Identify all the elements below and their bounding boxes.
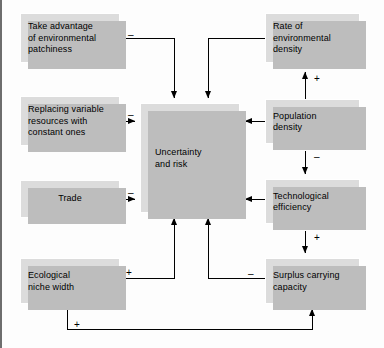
edge-sign-trade-to-uncertainty: – [128,188,134,198]
node-technological-efficiency[interactable]: Technological efficiency [265,179,360,224]
edge-sign-ecological-niche-width-to-uncertainty: + [126,268,132,278]
edge-rate-of-environmental-density-to-uncertainty [208,38,265,98]
edge-sign-surplus-carrying-capacity-to-uncertainty: – [248,269,254,279]
node-label: Population density [273,110,354,133]
node-label: Surplus carrying capacity [273,270,354,293]
node-label: Replacing variable resources with consta… [28,104,114,139]
edge-sign-take-advantage-to-uncertainty: – [128,30,134,40]
edge-sign-replacing-variable-to-uncertainty: – [128,110,134,120]
node-rate-of-environmental-density[interactable]: Rate of environmental density [265,13,360,63]
node-surplus-carrying-capacity[interactable]: Surplus carrying capacity [265,258,360,304]
node-label: Technological efficiency [273,190,354,213]
node-label: Rate of environmental density [273,21,354,56]
edge-sign-population-density-to-technological-efficiency: – [314,152,320,162]
node-population-density[interactable]: Population density [265,99,360,144]
edge-surplus-carrying-capacity-to-uncertainty [208,218,265,278]
edge-sign-ecological-niche-width-to-surplus-carrying-capacity: + [74,320,80,330]
node-uncertainty-and-risk[interactable]: Uncertainty and risk [140,103,240,213]
node-label: Take advantage of environmental patchine… [28,21,114,56]
node-trade[interactable]: Trade [20,180,120,218]
edge-sign-population-density-to-rate-of-environmental-density: + [314,74,320,84]
node-label: Ecological niche width [28,270,114,293]
node-label: Trade [21,193,119,205]
edge-take-advantage-to-uncertainty [120,38,174,98]
node-label: Uncertainty and risk [155,147,233,170]
diagram-canvas: Take advantage of environmental patchine… [0,0,384,348]
node-ecological-niche-width[interactable]: Ecological niche width [20,258,120,304]
node-replacing-variable[interactable]: Replacing variable resources with consta… [20,96,120,146]
edge-sign-technological-efficiency-to-surplus-carrying-capacity: + [314,233,320,243]
node-take-advantage[interactable]: Take advantage of environmental patchine… [20,13,120,63]
